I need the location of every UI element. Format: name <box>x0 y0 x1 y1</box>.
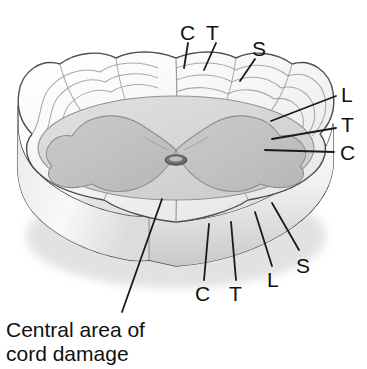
label-top-c: C <box>180 22 195 43</box>
label-bottom-t: T <box>229 283 242 304</box>
label-right-c: C <box>340 142 355 163</box>
label-top-s: S <box>252 38 266 59</box>
label-right-l: L <box>341 84 353 105</box>
label-right-t: T <box>341 114 354 135</box>
spinal-cord-cross-section-figure <box>0 0 367 369</box>
label-top-t: T <box>206 22 219 43</box>
caption-line-2: cord damage <box>6 342 129 365</box>
label-bottom-c: C <box>195 283 210 304</box>
central-damage-caption: Central area ofcord damage <box>6 318 145 366</box>
caption-line-1: Central area of <box>6 318 145 341</box>
label-bottom-s: S <box>296 255 310 276</box>
label-bottom-l: L <box>267 269 279 290</box>
central-canal <box>165 155 187 165</box>
